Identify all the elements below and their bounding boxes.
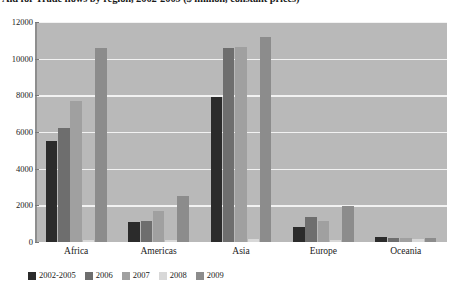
- x-axis-category-label: Africa: [35, 246, 117, 256]
- chart-title: Aid for Trade flows by region, 2002-2009…: [2, 0, 449, 4]
- legend-swatch-icon: [196, 272, 204, 280]
- legend-swatch-icon: [85, 272, 93, 280]
- bar-group: [200, 22, 282, 242]
- legend-label: 2008: [170, 271, 187, 280]
- bar: [128, 222, 140, 242]
- y-axis-tick-label: 2000: [0, 201, 33, 210]
- y-axis-tick-label: 8000: [0, 91, 33, 100]
- legend-item[interactable]: 2006: [85, 271, 113, 280]
- x-axis-category-label: Americas: [117, 246, 199, 256]
- legend-item[interactable]: 2002-2005: [28, 271, 76, 280]
- legend-item[interactable]: 2007: [122, 271, 150, 280]
- bar: [58, 128, 70, 242]
- bar-group: [365, 22, 447, 242]
- y-axis-tickmark: [35, 205, 39, 206]
- bar: [211, 97, 223, 242]
- y-axis-tick-label: 4000: [0, 165, 33, 174]
- bar: [400, 238, 412, 242]
- y-axis-tick-label: 0: [0, 238, 33, 247]
- bar-group: [35, 22, 117, 242]
- y-axis-tick-label: 6000: [0, 128, 33, 137]
- bar: [388, 238, 400, 242]
- bar: [46, 141, 58, 242]
- y-axis-tickmark: [35, 22, 39, 23]
- legend-label: 2007: [133, 271, 150, 280]
- bar: [235, 47, 247, 242]
- bar: [165, 240, 177, 242]
- y-axis-tickmark: [35, 95, 39, 96]
- y-axis-tickmark: [35, 132, 39, 133]
- legend-swatch-icon: [122, 272, 130, 280]
- bar: [248, 239, 260, 242]
- bar: [70, 101, 82, 242]
- bar: [342, 206, 354, 242]
- x-axis-category-label: Oceania: [365, 246, 447, 256]
- y-axis-tick-label: 10000: [0, 55, 33, 64]
- plot-area: [35, 22, 447, 242]
- bar: [177, 196, 189, 242]
- bar: [305, 217, 317, 242]
- bar: [141, 221, 153, 242]
- bar: [153, 211, 165, 242]
- legend-swatch-icon: [159, 272, 167, 280]
- bar: [425, 238, 437, 242]
- bar: [223, 48, 235, 242]
- bar: [260, 37, 272, 242]
- legend-label: 2009: [207, 271, 224, 280]
- y-axis-tickmark: [35, 59, 39, 60]
- bar: [330, 240, 342, 242]
- bar: [318, 221, 330, 242]
- bar: [293, 227, 305, 242]
- bar: [83, 240, 95, 242]
- y-axis-tick-labels: 120001000080006000400020000: [0, 0, 33, 289]
- bar: [412, 239, 424, 242]
- legend-label: 2006: [96, 271, 113, 280]
- legend-item[interactable]: 2008: [159, 271, 187, 280]
- chart-figure: Aid for Trade flows by region, 2002-2009…: [0, 0, 451, 289]
- y-axis-tickmark: [35, 242, 39, 243]
- y-axis-tick-label: 12000: [0, 18, 33, 27]
- legend-swatch-icon: [28, 272, 36, 280]
- bar-group: [282, 22, 364, 242]
- legend-label: 2002-2005: [39, 271, 76, 280]
- legend-item[interactable]: 2009: [196, 271, 224, 280]
- chart-legend: 2002-20052006200720082009: [28, 271, 224, 280]
- x-axis-category-label: Asia: [200, 246, 282, 256]
- y-axis-tickmark: [35, 169, 39, 170]
- bar-group: [117, 22, 199, 242]
- bar: [95, 48, 107, 242]
- x-axis-category-label: Europe: [282, 246, 364, 256]
- bar: [375, 237, 387, 242]
